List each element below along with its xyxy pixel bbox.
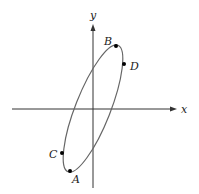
y-axis-label: y bbox=[89, 9, 97, 22]
point-a-label: A bbox=[71, 173, 80, 186]
y-axis: y bbox=[89, 9, 97, 188]
point-c-label: C bbox=[49, 148, 58, 161]
point-d: D bbox=[122, 60, 139, 73]
point-b-dot bbox=[114, 44, 118, 48]
point-c-dot bbox=[60, 151, 64, 155]
y-axis-arrow-icon bbox=[91, 24, 96, 31]
point-b-label: B bbox=[103, 35, 112, 48]
ellipse-diagram: x y A B C D bbox=[0, 0, 199, 194]
x-axis-label: x bbox=[181, 103, 188, 116]
point-d-dot bbox=[122, 62, 126, 66]
point-b: B bbox=[103, 35, 118, 48]
x-axis: x bbox=[12, 103, 188, 116]
point-d-label: D bbox=[129, 60, 139, 73]
x-axis-arrow-icon bbox=[170, 107, 177, 112]
point-c: C bbox=[49, 148, 64, 161]
